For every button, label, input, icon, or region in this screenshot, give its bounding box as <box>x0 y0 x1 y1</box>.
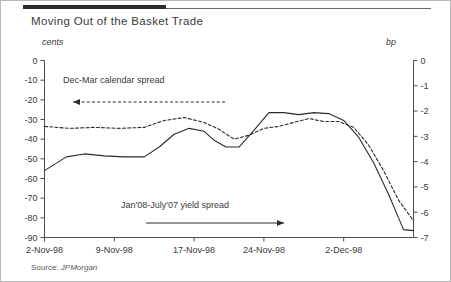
right-axis-tick-label: -1 <box>421 81 429 91</box>
source-prefix: Source: <box>31 263 59 272</box>
annotation-label-0: Dec-Mar calendar spread <box>63 75 165 85</box>
line-chart-plot: 0-10-20-30-40-50-60-70-80-900-1-2-3-4-5-… <box>1 1 451 282</box>
x-axis-tick-label: 24-Nov-98 <box>243 245 285 255</box>
series-line-solid <box>45 113 414 231</box>
left-axis-tick-label: -60 <box>24 174 37 184</box>
source-note: Source: JPMorgan <box>31 263 97 272</box>
left-axis-tick-label: -90 <box>24 233 37 243</box>
chart-figure: Moving Out of the Basket Trade cents bp … <box>0 0 451 282</box>
left-axis-tick-label: 0 <box>32 56 37 66</box>
right-axis-tick-label: -5 <box>421 182 429 192</box>
left-axis-tick-label: -50 <box>24 154 37 164</box>
right-axis-tick-label: -6 <box>421 208 429 218</box>
right-axis-tick-label: -4 <box>421 157 429 167</box>
annotation-label-1: Jan'08-July'07 yield spread <box>121 200 229 210</box>
x-axis-tick-label: 2-Nov-98 <box>26 245 63 255</box>
right-axis-tick-label: -2 <box>421 106 429 116</box>
left-axis-tick-label: -30 <box>24 115 37 125</box>
left-axis-tick-label: -20 <box>24 95 37 105</box>
left-axis-tick-label: -40 <box>24 134 37 144</box>
series-line-dashed <box>45 118 414 221</box>
left-axis-tick-label: -10 <box>24 75 37 85</box>
left-axis-tick-label: -80 <box>24 213 37 223</box>
x-axis-tick-label: 17-Nov-98 <box>173 245 215 255</box>
right-axis-tick-label: 0 <box>421 56 426 66</box>
annotation-arrow-head-1 <box>277 220 284 226</box>
right-axis-tick-label: -3 <box>421 132 429 142</box>
x-axis-tick-label: 9-Nov-98 <box>96 245 133 255</box>
source-publisher: JPMorgan <box>61 263 97 272</box>
right-axis-tick-label: -7 <box>421 233 429 243</box>
x-axis-tick-label: 2-Dec-98 <box>325 245 362 255</box>
annotation-arrow-head-0 <box>73 99 80 105</box>
left-axis-tick-label: -70 <box>24 193 37 203</box>
